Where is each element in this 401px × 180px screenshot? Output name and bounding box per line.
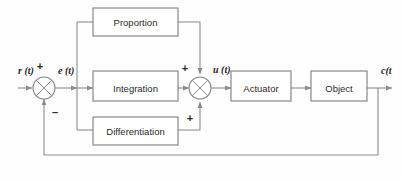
junction-control-summer [189, 77, 211, 99]
block-diagram-canvas: Proportion Integration Differentiation A… [0, 0, 401, 180]
block-object-label: Object [325, 83, 353, 94]
sign-control-summer-left-positive: + [182, 62, 188, 74]
block-actuator[interactable]: Actuator [231, 71, 291, 101]
block-differentiation[interactable]: Differentiation [93, 117, 178, 145]
signal-label-output: c(t [381, 65, 393, 77]
block-proportion-label: Proportion [114, 17, 158, 28]
block-integration-label: Integration [113, 83, 158, 94]
sign-error-summer-positive: + [37, 60, 43, 72]
block-actuator-label: Actuator [243, 83, 278, 94]
sign-error-summer-negative: – [52, 106, 58, 118]
block-object[interactable]: Object [311, 71, 367, 101]
block-integration[interactable]: Integration [93, 71, 178, 101]
block-diagram-svg: Proportion Integration Differentiation A… [0, 0, 401, 180]
signal-label-error: e (t) [58, 65, 74, 77]
block-differentiation-label: Differentiation [106, 126, 164, 137]
signal-label-reference: r (t) [18, 65, 34, 77]
block-proportion[interactable]: Proportion [93, 8, 178, 36]
signal-label-control: u (t) [213, 64, 231, 76]
junction-error-summer [33, 77, 55, 99]
sign-control-summer-bottom-positive: + [187, 112, 193, 124]
